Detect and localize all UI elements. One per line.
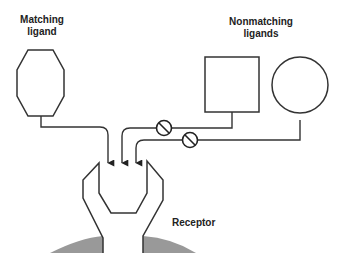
nonmatching-ligands-label-line1: Nonmatching: [229, 16, 293, 27]
receptor-label: Receptor: [172, 217, 215, 228]
nonmatching-ligands-label-line2: ligands: [243, 28, 278, 39]
matching-ligand-label-line1: Matching: [20, 14, 64, 25]
matching-ligand-label-line2: ligand: [27, 26, 56, 37]
matching-ligand-octagon: [17, 50, 64, 116]
matching-binding-arrow: [41, 116, 108, 163]
blocked-icon-circle: [183, 133, 198, 148]
ligand-receptor-diagram: Matching ligand Nonmatching ligands Rece…: [0, 0, 342, 264]
membrane-left: [50, 236, 103, 253]
blocked-icon-square: [157, 121, 172, 136]
nonmatching-ligand-circle: [272, 57, 328, 113]
nonmatching-ligand-square: [205, 57, 259, 112]
membrane-right: [143, 236, 196, 253]
square-binding-arrow: [122, 112, 232, 163]
